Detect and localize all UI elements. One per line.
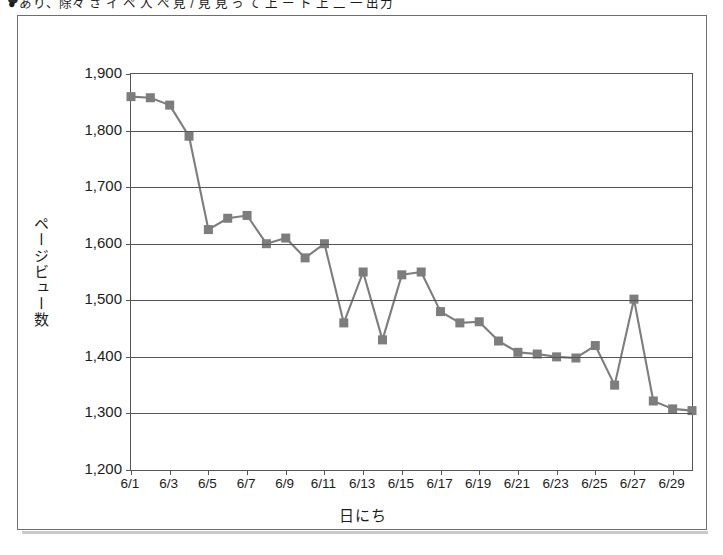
x-tick-label: 6/1 xyxy=(121,477,140,491)
data-point-marker xyxy=(165,101,174,110)
gridline xyxy=(131,413,692,414)
y-tick-labels: 1,2001,3001,4001,5001,6001,7001,8001,900 xyxy=(60,73,122,469)
x-tick-label: 6/15 xyxy=(388,477,414,491)
data-point-marker xyxy=(204,225,213,234)
x-tick-label: 6/5 xyxy=(198,477,217,491)
data-point-marker xyxy=(610,381,619,390)
x-tick-label: 6/9 xyxy=(275,477,294,491)
data-point-marker xyxy=(649,396,658,405)
y-tick-label: 1,900 xyxy=(84,65,122,80)
plot-area xyxy=(130,73,693,471)
y-tick-mark xyxy=(126,74,131,75)
data-point-marker xyxy=(668,404,677,413)
data-point-marker xyxy=(513,348,522,357)
x-tick-label: 6/27 xyxy=(620,477,646,491)
x-tick-mark xyxy=(208,470,209,475)
x-tick-label: 6/11 xyxy=(311,477,336,491)
x-tick-mark xyxy=(441,470,442,475)
data-point-marker xyxy=(223,214,232,223)
x-tick-mark xyxy=(170,470,171,475)
x-tick-labels: 6/16/36/56/76/96/116/136/156/176/196/216… xyxy=(130,477,691,497)
data-point-marker xyxy=(494,337,503,346)
gridline xyxy=(131,300,692,301)
data-point-marker xyxy=(378,335,387,344)
data-point-marker xyxy=(475,317,484,326)
x-tick-mark xyxy=(479,470,480,475)
data-point-marker xyxy=(339,318,348,327)
caption-text: ● あり、除々 さ イ ペ 人 ぺ 見 / 見 見 っ て 上 ー ト 上 二 … xyxy=(8,0,393,11)
gridline xyxy=(131,187,692,188)
x-tick-label: 6/17 xyxy=(426,477,452,491)
x-tick-mark xyxy=(557,470,558,475)
data-point-marker xyxy=(281,234,290,243)
data-point-marker xyxy=(243,211,252,220)
x-tick-label: 6/25 xyxy=(581,477,607,491)
data-point-marker xyxy=(571,353,580,362)
x-tick-label: 6/13 xyxy=(349,477,375,491)
y-tick-mark xyxy=(126,187,131,188)
y-tick-label: 1,500 xyxy=(84,291,122,306)
data-point-marker xyxy=(359,268,368,277)
x-tick-mark xyxy=(324,470,325,475)
data-point-marker xyxy=(417,268,426,277)
x-tick-mark xyxy=(247,470,248,475)
y-tick-mark xyxy=(126,300,131,301)
x-tick-label: 6/3 xyxy=(159,477,178,491)
y-axis-title: ページビュー数 xyxy=(30,216,51,328)
data-point-marker xyxy=(301,253,310,262)
x-tick-label: 6/21 xyxy=(504,477,530,491)
data-point-marker xyxy=(591,341,600,350)
data-point-marker xyxy=(455,318,464,327)
x-axis-title: 日にち xyxy=(18,504,708,525)
figure-frame: ページビュー数 1,2001,3001,4001,5001,6001,7001,… xyxy=(17,15,707,530)
y-tick-mark xyxy=(126,357,131,358)
data-point-marker xyxy=(127,92,136,101)
y-tick-mark xyxy=(126,244,131,245)
x-tick-mark xyxy=(363,470,364,475)
y-tick-label: 1,600 xyxy=(84,235,122,250)
y-tick-label: 1,200 xyxy=(84,461,122,476)
x-tick-label: 6/29 xyxy=(659,477,685,491)
y-tick-label: 1,800 xyxy=(84,122,122,137)
data-point-marker xyxy=(185,132,194,141)
gridline xyxy=(131,244,692,245)
data-point-marker xyxy=(397,270,406,279)
caption-strip: ● あり、除々 さ イ ペ 人 ぺ 見 / 見 見 っ て 上 ー ト 上 二 … xyxy=(0,0,723,11)
x-tick-mark xyxy=(595,470,596,475)
x-tick-mark xyxy=(518,470,519,475)
data-point-marker xyxy=(629,295,638,304)
y-tick-mark xyxy=(126,131,131,132)
x-tick-mark xyxy=(673,470,674,475)
series-markers xyxy=(127,92,697,415)
x-tick-mark xyxy=(402,470,403,475)
data-point-marker xyxy=(436,307,445,316)
figure-shadow xyxy=(22,531,708,534)
gridline xyxy=(131,131,692,132)
y-tick-mark xyxy=(126,413,131,414)
x-tick-label: 6/19 xyxy=(465,477,491,491)
gridline xyxy=(131,357,692,358)
line-series xyxy=(131,74,692,470)
x-tick-mark xyxy=(131,470,132,475)
x-tick-mark xyxy=(286,470,287,475)
y-tick-label: 1,300 xyxy=(84,404,122,419)
x-tick-mark xyxy=(634,470,635,475)
data-point-marker xyxy=(146,93,155,102)
series-polyline xyxy=(131,97,692,411)
x-tick-label: 6/23 xyxy=(542,477,568,491)
y-tick-label: 1,400 xyxy=(84,348,122,363)
y-tick-label: 1,700 xyxy=(84,178,122,193)
x-tick-label: 6/7 xyxy=(237,477,256,491)
